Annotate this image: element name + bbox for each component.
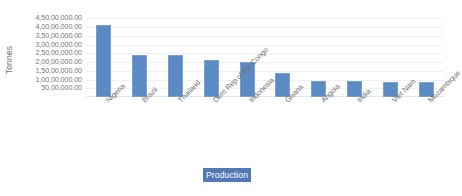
y-axis-tick-label: 1,50,00,000.00 [35, 67, 82, 75]
legend-entry-production[interactable]: Production [203, 168, 251, 182]
bar-brazil[interactable] [132, 55, 147, 97]
y-axis-tick-labels: 50,00,000.001,00,00,000.001,50,00,000.00… [16, 14, 84, 97]
y-axis-tick-label: 3,00,00,000.00 [35, 41, 82, 49]
bar-nigeria[interactable] [96, 25, 111, 97]
bar-thailand[interactable] [168, 55, 183, 97]
x-axis-category-labels: NigeriaBrazilThailandDem Rep of the Cong… [86, 98, 444, 158]
y-axis-tick-label: 2,50,00,000.00 [35, 49, 82, 57]
y-axis-tick-label: 4,50,00,000.00 [35, 14, 82, 22]
y-axis-title-label: Tonnes [4, 46, 14, 75]
y-axis-tick-label: 4,00,00,000.00 [35, 23, 82, 31]
chart-legend: Production [0, 168, 454, 182]
y-axis-tick-label: 1,00,00,000.00 [35, 76, 82, 84]
y-axis-tick-label: 50,00,000.00 [41, 84, 82, 92]
y-axis-tick-label: 2,00,00,000.00 [35, 58, 82, 66]
bar-slot [337, 14, 373, 97]
y-axis-title: Tonnes [2, 20, 16, 100]
y-axis-tick-label: 3,50,00,000.00 [35, 32, 82, 40]
